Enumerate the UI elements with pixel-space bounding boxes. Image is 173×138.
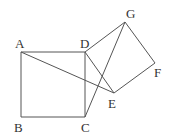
geometry-diagram: ABCDEFG — [0, 0, 173, 138]
point-label-A: A — [15, 36, 25, 51]
point-label-C: C — [81, 120, 90, 135]
point-label-E: E — [108, 96, 116, 111]
point-label-B: B — [14, 120, 23, 135]
segment-EF — [114, 63, 155, 93]
segment-FG — [125, 22, 155, 63]
point-label-F: F — [154, 65, 161, 80]
segment-CG — [85, 22, 125, 117]
point-labels: ABCDEFG — [14, 6, 161, 135]
point-label-D: D — [80, 36, 89, 51]
point-label-G: G — [126, 6, 135, 21]
